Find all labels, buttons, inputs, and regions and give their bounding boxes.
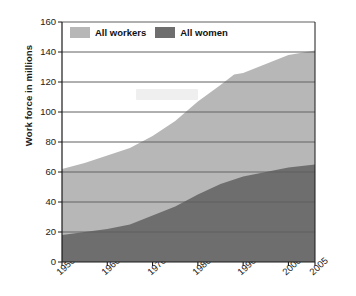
legend-label: All workers	[95, 27, 146, 38]
area-chart: Work force in millions 16014012010080604…	[0, 0, 356, 296]
scan-artifact	[136, 89, 198, 100]
legend-item: All workers	[70, 27, 146, 38]
legend-swatch	[155, 27, 175, 38]
plot-area	[0, 0, 356, 296]
legend-label: All women	[180, 27, 228, 38]
legend-swatch	[70, 27, 90, 38]
chart-legend: All workersAll women	[70, 27, 228, 38]
legend-item: All women	[155, 27, 228, 38]
